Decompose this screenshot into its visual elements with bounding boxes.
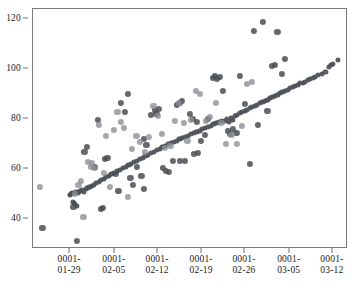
- data-point: [255, 122, 261, 128]
- x-tick-label-line2: 02-19: [190, 265, 213, 276]
- data-point: [155, 112, 161, 118]
- x-tick-label: 0001-03-12: [320, 254, 343, 276]
- x-tick-label-line1: 0001-: [190, 254, 213, 265]
- x-tick-label-line1: 0001-: [58, 254, 81, 265]
- data-point: [124, 91, 130, 97]
- y-tick-mark: [23, 118, 28, 119]
- data-point: [70, 204, 76, 210]
- data-point: [250, 28, 256, 34]
- data-point: [100, 205, 106, 211]
- data-point: [274, 28, 280, 34]
- y-tick-label: 120: [6, 13, 21, 23]
- x-tick-label: 0001-02-12: [145, 254, 168, 276]
- x-tick-label-line2: 03-05: [277, 265, 300, 276]
- x-tick-label: 0001-01-29: [58, 254, 81, 276]
- data-point: [207, 114, 213, 120]
- data-point: [158, 131, 164, 137]
- x-tick-label-line1: 0001-: [320, 254, 343, 265]
- data-point: [247, 160, 253, 166]
- figure-caption: [0, 286, 356, 295]
- x-tick-mark: [69, 248, 70, 253]
- data-point: [114, 109, 120, 115]
- data-point: [167, 143, 173, 149]
- data-point: [195, 150, 201, 156]
- data-point: [220, 88, 226, 94]
- data-point: [218, 120, 224, 126]
- x-tick-label: 0001-02-19: [190, 254, 213, 276]
- x-tick-label: 0001-02-05: [102, 254, 125, 276]
- y-tick-mark: [23, 168, 28, 169]
- data-points-layer: [33, 9, 346, 247]
- data-point: [217, 73, 223, 79]
- x-tick-mark: [288, 248, 289, 253]
- x-tick-label-line1: 0001-: [277, 254, 300, 265]
- data-point: [170, 158, 176, 164]
- data-point: [134, 164, 140, 170]
- x-tick-mark: [113, 248, 114, 253]
- y-tick-mark: [23, 68, 28, 69]
- data-point: [74, 238, 80, 244]
- x-tick-mark: [331, 248, 332, 253]
- data-point: [223, 141, 229, 147]
- data-point: [71, 190, 77, 196]
- data-point: [96, 122, 102, 128]
- data-point: [127, 175, 133, 181]
- y-tick-label: 80: [11, 113, 21, 123]
- data-point: [37, 183, 43, 189]
- data-point: [130, 182, 136, 188]
- data-point: [102, 155, 108, 161]
- y-tick-label: 100: [6, 63, 21, 73]
- data-point: [249, 79, 255, 85]
- y-tick-mark: [23, 18, 28, 19]
- data-point: [103, 133, 109, 139]
- data-point: [80, 213, 86, 219]
- scatter-plot-figure: 406080100120 0001-01-290001-02-050001-02…: [0, 0, 356, 295]
- data-point: [239, 122, 245, 128]
- data-point: [81, 149, 87, 155]
- data-point: [202, 132, 208, 138]
- data-point: [39, 225, 45, 231]
- data-point: [323, 69, 328, 74]
- data-point: [143, 142, 149, 148]
- y-tick-label: 60: [11, 163, 21, 173]
- data-point: [335, 57, 340, 62]
- data-point: [118, 100, 124, 106]
- data-point: [117, 119, 123, 125]
- data-point: [197, 90, 203, 96]
- data-point: [180, 120, 186, 126]
- y-tick-label: 40: [11, 213, 21, 223]
- data-point: [198, 138, 204, 144]
- data-point: [111, 127, 117, 133]
- data-point: [279, 71, 285, 77]
- x-tick-label-line2: 03-12: [320, 265, 343, 276]
- data-point: [129, 145, 135, 151]
- x-tick-mark: [157, 248, 158, 253]
- x-tick-label-line1: 0001-: [232, 254, 255, 265]
- data-point: [177, 158, 183, 164]
- data-point: [122, 108, 128, 114]
- data-point: [272, 61, 278, 67]
- data-point: [260, 19, 266, 25]
- data-point: [112, 171, 118, 177]
- y-tick-mark: [23, 218, 28, 219]
- data-point: [133, 132, 139, 138]
- x-tick-label-line2: 02-12: [145, 265, 168, 276]
- plot-area: [32, 8, 347, 248]
- y-axis: 406080100120: [0, 0, 32, 256]
- data-point: [107, 184, 113, 190]
- data-point: [237, 73, 243, 79]
- x-tick-label-line2: 01-29: [58, 265, 81, 276]
- data-point: [194, 118, 200, 124]
- data-point: [138, 173, 144, 179]
- data-point: [184, 138, 190, 144]
- data-point: [156, 106, 162, 112]
- x-tick-label: 0001-02-26: [232, 254, 255, 276]
- x-tick-label: 0001-03-05: [277, 254, 300, 276]
- data-point: [137, 139, 143, 145]
- data-point: [264, 107, 270, 113]
- data-point: [115, 188, 121, 194]
- data-point: [125, 194, 131, 200]
- x-tick-label-line2: 02-05: [102, 265, 125, 276]
- data-point: [146, 134, 152, 140]
- data-point: [282, 56, 288, 62]
